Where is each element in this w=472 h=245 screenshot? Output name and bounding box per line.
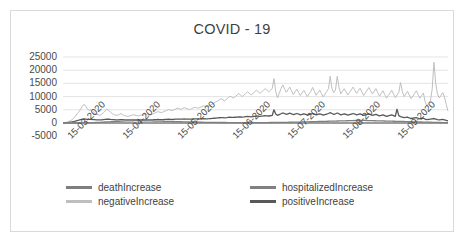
legend-label: positiveIncrease xyxy=(282,196,354,207)
y-axis-tick: 0 xyxy=(13,118,57,128)
y-axis-tick: 20000 xyxy=(13,65,57,75)
y-axis-tick: 15000 xyxy=(13,78,57,88)
y-axis-tick: 25000 xyxy=(13,52,57,62)
legend-row: deathIncrease hospitalizedIncrease xyxy=(11,182,455,193)
legend-swatch-icon xyxy=(250,186,276,189)
legend-item-negativeincrease[interactable]: negativeIncrease xyxy=(66,196,216,207)
chart-container: COVID - 19 2500020000150001000050000-500… xyxy=(10,10,454,232)
legend-label: deathIncrease xyxy=(98,182,161,193)
legend-item-deathincrease[interactable]: deathIncrease xyxy=(66,182,216,193)
legend-item-hospitalizedincrease[interactable]: hospitalizedIncrease xyxy=(250,182,400,193)
legend-swatch-icon xyxy=(66,186,92,189)
legend-row: negativeIncrease positiveIncrease xyxy=(11,196,455,207)
y-axis-tick: 5000 xyxy=(13,105,57,115)
legend-item-positiveincrease[interactable]: positiveIncrease xyxy=(250,196,400,207)
legend-swatch-icon xyxy=(250,200,276,203)
legend-swatch-icon xyxy=(66,200,92,203)
y-axis-tick: -5000 xyxy=(13,131,57,141)
chart-legend: deathIncrease hospitalizedIncrease negat… xyxy=(11,179,455,207)
legend-label: hospitalizedIncrease xyxy=(282,182,373,193)
legend-label: negativeIncrease xyxy=(98,196,174,207)
y-axis-tick: 10000 xyxy=(13,92,57,102)
